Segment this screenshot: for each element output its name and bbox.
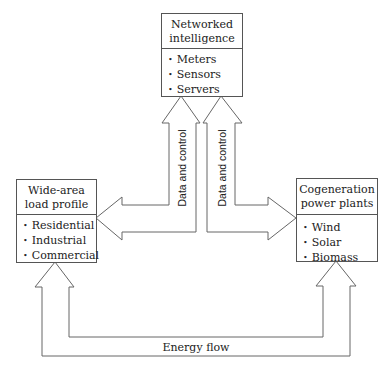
- list-item: Wind: [303, 221, 377, 236]
- node-networked-intelligence: Networked intelligence Meters Sensors Se…: [161, 13, 243, 97]
- title-line: Wide-area: [17, 184, 96, 198]
- item-list: Residential Industrial Commercial: [17, 215, 96, 264]
- list-item: Biomass: [303, 251, 377, 266]
- list-item: Solar: [303, 236, 377, 251]
- data-control-label-left: Data and control: [176, 129, 188, 206]
- list-item: Industrial: [23, 234, 96, 249]
- energy-flow-label: Energy flow: [162, 341, 229, 354]
- title-line: Cogeneration: [297, 183, 377, 197]
- list-item: Commercial: [23, 249, 96, 264]
- title-line: Networked: [162, 18, 242, 32]
- title-line: load profile: [17, 198, 96, 212]
- list-item: Servers: [168, 83, 242, 98]
- item-list: Meters Sensors Servers: [162, 49, 242, 98]
- list-item: Meters: [168, 53, 242, 68]
- title-line: intelligence: [162, 32, 242, 46]
- item-list: Wind Solar Biomass: [297, 215, 377, 266]
- node-title: Networked intelligence: [162, 14, 242, 49]
- data-control-label-right: Data and control: [216, 129, 228, 206]
- node-title: Cogeneration power plants: [297, 179, 377, 215]
- node-wide-area-load-profile: Wide-area load profile Residential Indus…: [16, 179, 97, 263]
- node-title: Wide-area load profile: [17, 180, 96, 215]
- title-line: power plants: [297, 197, 377, 211]
- list-item: Sensors: [168, 68, 242, 83]
- list-item: Residential: [23, 219, 96, 234]
- node-cogeneration-power-plants: Cogeneration power plants Wind Solar Bio…: [296, 178, 378, 262]
